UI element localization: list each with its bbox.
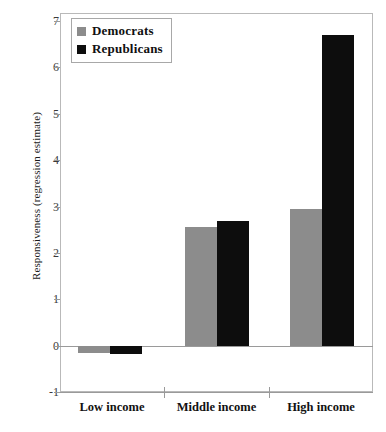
x-axis-separator xyxy=(164,387,165,398)
x-tick-label: High income xyxy=(269,400,373,415)
legend-swatch-democrats-icon xyxy=(77,27,86,36)
x-tick-label: Low income xyxy=(60,400,164,415)
bar-chart: Responsiveness (regression estimate) 765… xyxy=(0,0,386,432)
y-tick-mark xyxy=(54,253,60,254)
bar-democrats-middle-income xyxy=(185,227,217,346)
chart-legend: Democrats Republicans xyxy=(71,18,172,63)
legend-label-democrats: Democrats xyxy=(92,23,154,39)
y-tick-mark xyxy=(54,160,60,161)
legend-label-republicans: Republicans xyxy=(92,41,163,57)
y-tick-mark xyxy=(54,299,60,300)
bar-democrats-low-income xyxy=(78,346,110,353)
bar-republicans-high-income xyxy=(322,35,354,346)
legend-item-republicans: Republicans xyxy=(77,40,163,58)
legend-item-democrats: Democrats xyxy=(77,22,163,40)
x-tick-label: Middle income xyxy=(164,400,269,415)
bar-democrats-high-income xyxy=(290,209,322,346)
bar-republicans-middle-income xyxy=(217,221,249,345)
y-tick-mark xyxy=(54,114,60,115)
y-tick-mark xyxy=(54,67,60,68)
bar-republicans-low-income xyxy=(110,346,142,354)
y-tick-mark xyxy=(54,207,60,208)
x-axis-separator xyxy=(269,387,270,398)
legend-swatch-republicans-icon xyxy=(77,45,86,54)
x-axis-line xyxy=(60,392,373,393)
y-tick-mark xyxy=(54,21,60,22)
